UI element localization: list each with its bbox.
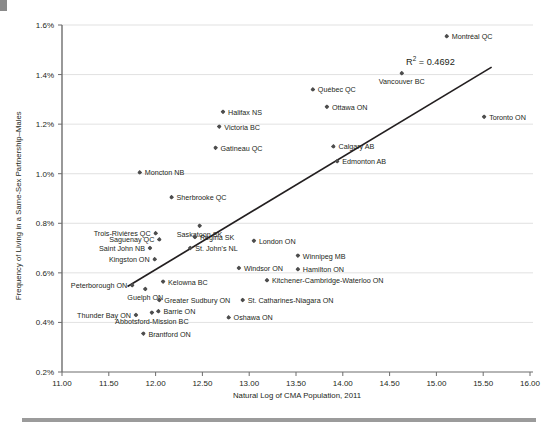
r-squared-value: = 0.4692 bbox=[416, 57, 455, 67]
data-point-label: Edmonton AB bbox=[342, 157, 386, 166]
data-point-label: Barrie ON bbox=[163, 307, 195, 316]
y-tick-label: 1.2% bbox=[20, 120, 54, 129]
data-point-label: Kelowna BC bbox=[168, 277, 208, 286]
data-point-label: Brantford ON bbox=[148, 329, 190, 338]
y-tick-label: 1.6% bbox=[20, 21, 54, 30]
y-tick-label: 0.8% bbox=[20, 219, 54, 228]
data-point-label: London ON bbox=[259, 236, 296, 245]
y-tick-label: 0.2% bbox=[20, 368, 54, 377]
x-tick-label: 15.50 bbox=[463, 379, 503, 388]
data-point-label: Peterborough ON bbox=[71, 281, 127, 290]
x-tick-label: 11.50 bbox=[89, 379, 129, 388]
data-point-label: Saint John NB bbox=[99, 244, 145, 253]
data-point-label: Gatineau QC bbox=[221, 143, 263, 152]
data-point-label: Greater Sudbury ON bbox=[164, 296, 230, 305]
y-tick-label: 0.6% bbox=[20, 268, 54, 277]
y-tick-label: 1.0% bbox=[20, 169, 54, 178]
x-axis-title-text: Natural Log of CMA Population, 2011 bbox=[233, 391, 361, 400]
x-tick-label: 13.50 bbox=[276, 379, 316, 388]
data-point-label: Toronto ON bbox=[489, 112, 526, 121]
data-point-label: Victoria BC bbox=[224, 122, 260, 131]
data-point-label: Thunder Bay ON bbox=[77, 310, 131, 319]
y-tick-label: 0.4% bbox=[20, 318, 54, 327]
data-point-label: Calgary AB bbox=[338, 142, 374, 151]
data-point-label: Oshawa ON bbox=[234, 313, 273, 322]
data-point-label: Halifax NS bbox=[228, 107, 262, 116]
scatter-chart: 0.2%0.4%0.6%0.8%1.0%1.2%1.4%1.6% 11.0011… bbox=[0, 0, 558, 437]
data-point-label: St. Catharines-Niagara ON bbox=[248, 296, 334, 305]
data-point-label: Québec QC bbox=[318, 85, 356, 94]
x-tick-label: 12.50 bbox=[182, 379, 222, 388]
data-point-label: Kingston ON bbox=[109, 255, 150, 264]
plot-canvas bbox=[0, 0, 558, 437]
x-tick-label: 14.50 bbox=[370, 379, 410, 388]
r-squared-symbol: R bbox=[406, 57, 413, 67]
data-point-label: Windsor ON bbox=[244, 263, 283, 272]
r-squared-annotation: R2 = 0.4692 bbox=[406, 55, 455, 67]
data-point-label: Vancouver BC bbox=[379, 77, 425, 86]
x-tick-label: 14.00 bbox=[323, 379, 363, 388]
data-point-label: St. John's NL bbox=[195, 244, 238, 253]
x-tick-label: 15.00 bbox=[416, 379, 456, 388]
data-point-label: Moncton NB bbox=[145, 168, 185, 177]
x-tick-label: 13.00 bbox=[229, 379, 269, 388]
data-point-label: Regina SK bbox=[200, 232, 234, 241]
data-point-label: Saguenay QC bbox=[109, 235, 154, 244]
data-point-label: Sherbrooke QC bbox=[177, 193, 227, 202]
x-axis-title: Natural Log of CMA Population, 2011 bbox=[18, 391, 558, 400]
x-tick-label: 11.00 bbox=[42, 379, 82, 388]
data-point-label: Kitchener-Cambridge-Waterloo ON bbox=[272, 276, 384, 285]
data-point-label: Ottawa ON bbox=[332, 102, 368, 111]
footer-divider bbox=[22, 418, 536, 422]
x-tick-label: 16.00 bbox=[510, 379, 550, 388]
x-tick-label: 12.00 bbox=[136, 379, 176, 388]
data-point-label: Hamilton ON bbox=[303, 265, 344, 274]
data-point-label: Winnipeg MB bbox=[303, 251, 346, 260]
y-axis-title: Frequency of Living in a Same-Sex Partne… bbox=[14, 111, 23, 300]
y-tick-label: 1.4% bbox=[20, 70, 54, 79]
data-point-label: Montréal QC bbox=[452, 32, 493, 41]
